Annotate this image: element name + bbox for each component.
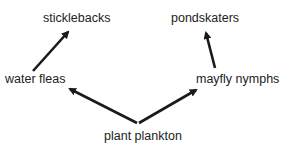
node-pondskaters: pondskaters	[171, 11, 239, 25]
node-sticklebacks: sticklebacks	[43, 11, 110, 25]
arrow-waterfleas-to-sticklebacks	[33, 32, 68, 71]
node-water-fleas: water fleas	[5, 72, 65, 86]
node-plant-plankton: plant plankton	[104, 129, 182, 143]
arrow-mayfly-to-pondskaters	[206, 33, 215, 68]
arrow-plankton-to-waterfleas	[70, 89, 137, 123]
node-mayfly-nymphs: mayfly nymphs	[196, 72, 279, 86]
arrow-plankton-to-mayfly	[139, 90, 196, 123]
